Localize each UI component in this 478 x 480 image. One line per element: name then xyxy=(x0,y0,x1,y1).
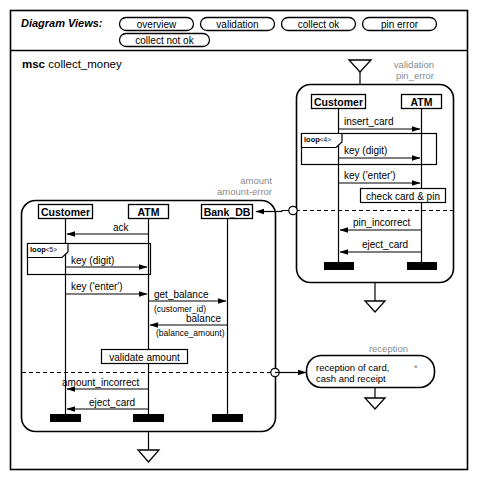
main-msg-eject-card-label: eject_card xyxy=(89,398,135,408)
msc-title: msc collect_money xyxy=(22,59,122,71)
validation-loop-label: loop<4> xyxy=(304,136,331,144)
main-lifeline-label-bankdb: Bank_DB xyxy=(201,207,253,218)
reception-node-marker: * xyxy=(414,364,418,373)
main-gate-label-line2: amount-error xyxy=(160,187,272,197)
validation-exit-triangle xyxy=(365,301,385,312)
validation-lifeline-label-atm: ATM xyxy=(401,97,442,108)
validation-end-bar-customer xyxy=(324,262,354,270)
main-gate-label-line1: amount xyxy=(160,176,272,186)
main-lifeline-label-atm: ATM xyxy=(128,207,169,218)
main-msg-key-digit-label: key (digit) xyxy=(71,256,114,266)
validation-msg-pin-incorrect-label: pin_incorrect xyxy=(353,218,410,228)
main-exit-triangle xyxy=(138,450,159,462)
main-end-bar-atm xyxy=(133,414,164,422)
validation-loop-count: <4> xyxy=(320,136,331,143)
chip-validation[interactable]: validation xyxy=(200,20,275,30)
main-msg-amount-incorrect-label: amount_incorrect xyxy=(62,378,139,388)
toolbar-title: Diagram Views: xyxy=(21,18,103,29)
chip-collect-not-ok[interactable]: collect not ok xyxy=(119,36,210,46)
chip-overview[interactable]: overview xyxy=(119,20,194,30)
reception-gate-label: reception xyxy=(310,344,408,354)
main-loop-label: loop<5> xyxy=(30,246,57,254)
validation-end-bar-atm xyxy=(407,262,437,270)
validation-gate-label-line1: validation xyxy=(316,60,434,70)
validation-msg-insert-card-label: insert_card xyxy=(344,117,393,127)
chip-pin-error[interactable]: pin error xyxy=(362,20,437,30)
validation-gate-label-line2: pin_error xyxy=(316,71,434,81)
main-msg-ack-label: ack xyxy=(113,223,129,233)
validation-gate-circle xyxy=(289,206,297,214)
connector-path-amount xyxy=(282,211,289,212)
validation-msg-eject-card-label: eject_card xyxy=(362,240,408,250)
validation-msg-key-enter-label: key ('enter') xyxy=(344,171,396,181)
main-end-bar-customer xyxy=(50,414,81,422)
msc-keyword: msc xyxy=(22,58,45,70)
main-msg-get-balance-label: get_balance xyxy=(154,290,209,300)
msc-name: collect_money xyxy=(48,58,122,70)
reception-exit-triangle xyxy=(365,398,385,409)
diagram-canvas: Diagram Views: overview validation colle… xyxy=(0,0,478,480)
main-msg-balance-param: (balance_amount) xyxy=(156,329,225,338)
main-lifeline-label-customer: Customer xyxy=(38,207,93,218)
reception-node-line2: cash and receipt xyxy=(316,373,386,384)
main-action-label: validate amount xyxy=(101,353,188,363)
validation-action-label: check card & pin xyxy=(360,192,446,202)
main-msg-key-enter-label: key ('enter') xyxy=(71,282,123,292)
validation-lifeline-label-customer: Customer xyxy=(311,97,366,108)
validation-loop-keyword: loop xyxy=(304,135,320,144)
main-loop-keyword: loop xyxy=(30,245,46,254)
chip-collect-ok[interactable]: collect ok xyxy=(281,20,356,30)
main-end-bar-bankdb xyxy=(212,414,243,422)
main-msg-balance-label: balance xyxy=(186,314,221,324)
validation-msg-key-digit-label: key (digit) xyxy=(344,146,387,156)
reception-node-line1: reception of card, xyxy=(316,362,389,373)
main-loop-count: <5> xyxy=(46,246,57,253)
